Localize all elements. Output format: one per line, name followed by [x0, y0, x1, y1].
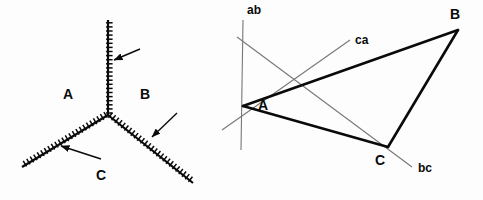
right-diagram-svg: [215, 0, 483, 200]
branch-lower-left-spine: [22, 115, 108, 167]
region-label-c: C: [96, 168, 106, 182]
triangle-edges: [243, 30, 458, 147]
vertex-label-c: C: [375, 153, 385, 167]
branch-lower-left: [22, 112, 108, 167]
trace-ca-line: [222, 40, 350, 130]
arrow-to-branch-lower-left: [61, 146, 101, 159]
trace-label-ab: ab: [247, 4, 261, 16]
figure-canvas: A B C ab ca bc A B C: [0, 0, 483, 200]
grain-boundary-branches: [22, 20, 193, 183]
branch-up: [106, 20, 113, 115]
arrow-to-branch-up: [114, 49, 140, 60]
right-diagram-panel: ab ca bc A B C: [215, 0, 483, 200]
trace-label-ca: ca: [355, 34, 368, 46]
branch-lower-right: [108, 113, 193, 183]
edge-ab: [243, 30, 458, 106]
region-label-a: A: [63, 87, 73, 101]
trace-ab-line: [241, 20, 243, 150]
vertex-label-a: A: [258, 98, 268, 112]
edge-bc: [388, 30, 458, 147]
vertex-label-b: B: [450, 7, 460, 21]
trace-label-bc: bc: [418, 162, 432, 174]
annotation-arrows: [61, 49, 177, 159]
region-label-b: B: [140, 87, 150, 101]
left-diagram-svg: [0, 0, 215, 200]
left-diagram-panel: A B C: [0, 0, 215, 200]
arrow-to-branch-lower-right: [152, 113, 177, 137]
